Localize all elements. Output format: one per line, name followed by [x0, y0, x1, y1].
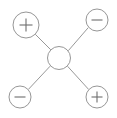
- edge-center-top-left: [35, 34, 51, 50]
- edge-center-top-right: [68, 28, 88, 51]
- node-center[interactable]: [48, 47, 71, 70]
- center-node-circle[interactable]: [48, 47, 71, 70]
- radial-node-link-diagram: [0, 0, 117, 118]
- edge-center-bottom-right: [68, 66, 89, 89]
- node-top-right[interactable]: [86, 9, 108, 31]
- edge-center-bottom-left: [28, 66, 50, 89]
- node-bottom-right[interactable]: [86, 86, 108, 108]
- node-top-left[interactable]: [13, 12, 39, 38]
- diagram-canvas: [0, 0, 117, 118]
- node-bottom-left[interactable]: [9, 86, 31, 108]
